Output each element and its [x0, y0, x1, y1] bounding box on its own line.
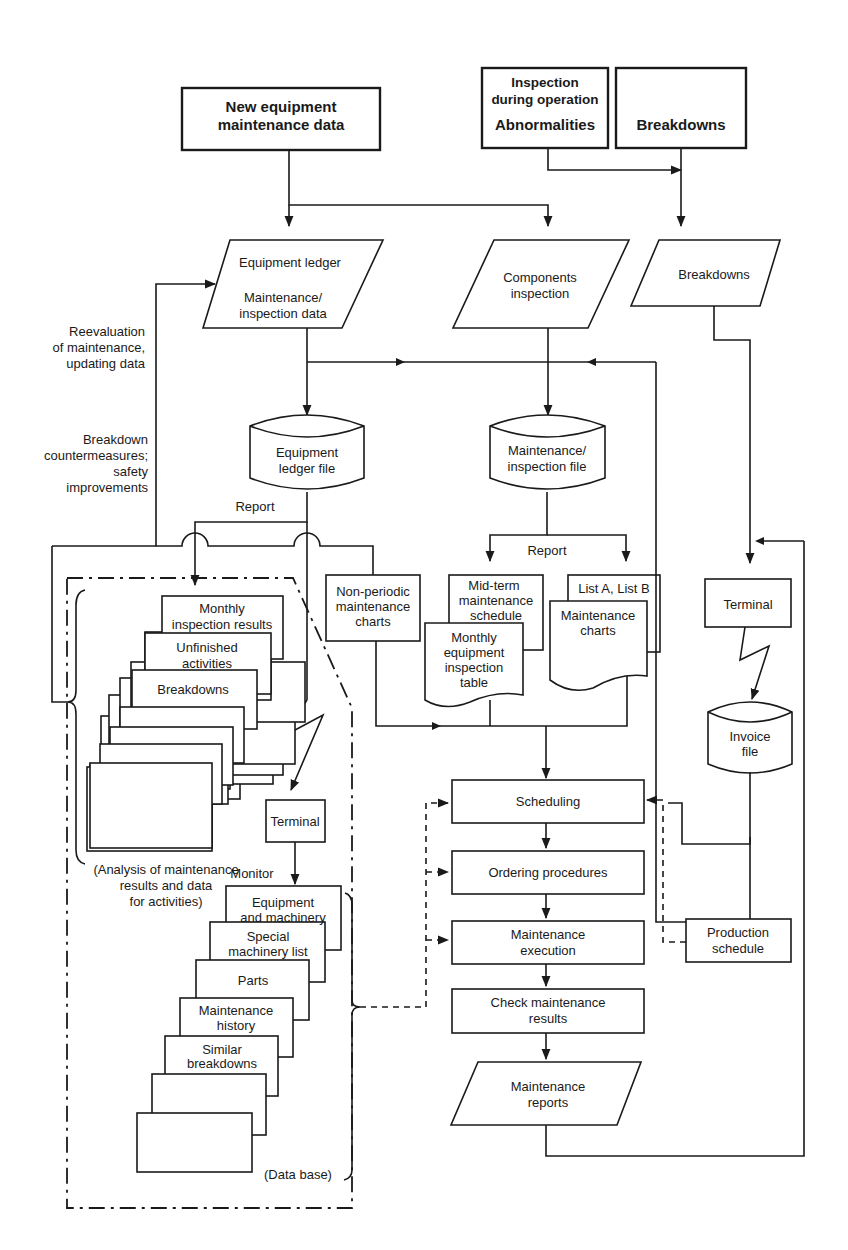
equipment-ledger-file: Equipment ledger file	[250, 415, 364, 489]
reports-line2: reports	[528, 1095, 569, 1110]
terminal-left-label: Terminal	[270, 814, 319, 829]
ordering-box: Ordering procedures	[452, 851, 644, 894]
maintenance-charts-line2: charts	[580, 623, 616, 638]
db-card-5-line2: breakdowns	[187, 1056, 258, 1071]
equipment-ledger-entry: Equipment ledger Maintenance/ inspection…	[203, 240, 383, 328]
database-stack: Equipment and machinery Special machiner…	[137, 886, 341, 1172]
equipment-ledger-line3: inspection data	[239, 306, 327, 321]
countermeasures-line2: countermeasures;	[44, 448, 148, 463]
monthly-table-line1: Monthly	[451, 630, 497, 645]
inspection-line2: during operation	[491, 92, 598, 107]
database-note: (Data base)	[264, 1167, 332, 1182]
ordering-label: Ordering procedures	[488, 865, 608, 880]
breakdowns-entry: Breakdowns	[631, 240, 780, 306]
countermeasures-line4: improvements	[66, 480, 148, 495]
components-inspection-entry: Components inspection	[453, 240, 629, 328]
non-periodic-line1: Non-periodic	[336, 584, 410, 599]
countermeasures-line1: Breakdown	[83, 432, 148, 447]
inspection-line1: Inspection	[511, 75, 579, 90]
db-card-1-line2: and machinery	[240, 910, 326, 925]
execution-line2: execution	[520, 943, 576, 958]
components-inspection-line2: inspection	[511, 286, 570, 301]
components-inspection-line1: Components	[503, 270, 577, 285]
maintenance-charts-line1: Maintenance	[561, 608, 635, 623]
execution-box: Maintenance execution	[452, 921, 644, 964]
check-line1: Check maintenance	[491, 995, 606, 1010]
equipment-ledger-file-line1: Equipment	[276, 445, 339, 460]
reevaluation-line2: of maintenance,	[52, 340, 145, 355]
analysis-note-line2: results and data	[120, 878, 213, 893]
maintenance-reports: Maintenance reports	[451, 1062, 641, 1125]
abnormalities-label: Abnormalities	[495, 116, 595, 133]
terminal-right-label: Terminal	[723, 597, 772, 612]
db-card-2-line2: machinery list	[228, 944, 308, 959]
analysis-card-1-line2: inspection results	[172, 617, 273, 632]
terminal-right: Terminal	[705, 579, 791, 627]
production-line2: schedule	[712, 941, 764, 956]
input-new-equipment-box: New equipment maintenance data	[182, 88, 380, 150]
terminal-left: Terminal	[266, 800, 325, 842]
reevaluation-line1: Reevaluation	[69, 324, 145, 339]
analysis-card-3: Breakdowns	[157, 682, 229, 697]
report-left-label: Report	[235, 499, 274, 514]
db-card-1-line1: Equipment	[252, 895, 315, 910]
breakdowns-entry-label: Breakdowns	[678, 267, 750, 282]
equipment-ledger-title: Equipment ledger	[239, 255, 342, 270]
check-line2: results	[529, 1011, 568, 1026]
check-results-box: Check maintenance results	[452, 989, 644, 1033]
scheduling-box: Scheduling	[452, 780, 644, 823]
execution-line1: Maintenance	[511, 927, 585, 942]
analysis-card-2-line1: Unfinished	[176, 640, 237, 655]
new-equipment-line2: maintenance data	[218, 116, 345, 133]
breakdowns-top-label: Breakdowns	[636, 116, 725, 133]
analysis-note-line1: (Analysis of maintenance	[93, 862, 238, 877]
input-breakdowns-box: Breakdowns	[616, 68, 746, 148]
reevaluation-line3: updating data	[66, 356, 146, 371]
mid-term-line3: schedule	[470, 608, 522, 623]
non-periodic-line2: maintenance	[336, 599, 410, 614]
mid-term-line1: Mid-term	[468, 578, 519, 593]
monthly-table-line4: table	[460, 675, 488, 690]
equipment-ledger-file-line2: ledger file	[279, 461, 335, 476]
db-card-2-line1: Special	[247, 929, 290, 944]
maintenance-inspection-file: Maintenance/ inspection file	[490, 415, 605, 489]
db-card-3: Parts	[238, 973, 269, 988]
db-card-5-line1: Similar	[202, 1042, 242, 1057]
countermeasures-line3: safety	[113, 464, 148, 479]
scheduling-label: Scheduling	[516, 794, 580, 809]
non-periodic-line3: charts	[355, 614, 391, 629]
db-card-4-line2: history	[217, 1018, 256, 1033]
analysis-card-2-line2: activities	[182, 656, 232, 671]
invoice-file-line1: Invoice	[729, 729, 770, 744]
equipment-ledger-line2: Maintenance/	[244, 290, 322, 305]
db-card-4-line1: Maintenance	[199, 1003, 273, 1018]
invoice-file: Invoice file	[708, 702, 792, 773]
monitor-label: Monitor	[230, 866, 274, 881]
non-periodic-charts: Non-periodic maintenance charts	[326, 575, 420, 641]
maintenance-charts: Maintenance charts	[550, 601, 647, 690]
monthly-table-line3: inspection	[445, 660, 504, 675]
list-ab-label: List A, List B	[578, 581, 650, 596]
monthly-inspection-table: Monthly equipment inspection table	[425, 623, 523, 707]
monthly-table-line2: equipment	[444, 645, 505, 660]
reports-line1: Maintenance	[511, 1079, 585, 1094]
report-mid-label: Report	[527, 543, 566, 558]
maintenance-file-line2: inspection file	[508, 459, 587, 474]
mid-term-line2: maintenance	[459, 593, 533, 608]
maintenance-flowchart: New equipment maintenance data Inspectio…	[0, 0, 848, 1250]
new-equipment-line1: New equipment	[226, 98, 337, 115]
invoice-file-line2: file	[742, 744, 759, 759]
maintenance-file-line1: Maintenance/	[508, 443, 586, 458]
analysis-note-line3: for activities)	[130, 894, 203, 909]
input-abnormalities-box: Inspection during operation Abnormalitie…	[482, 68, 608, 148]
analysis-card-1-line1: Monthly	[199, 601, 245, 616]
production-schedule-box: Production schedule	[686, 919, 791, 962]
production-line1: Production	[707, 925, 769, 940]
